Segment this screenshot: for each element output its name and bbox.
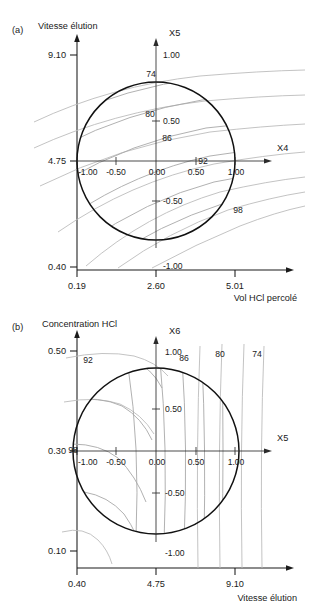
- panel-a-coded-x-label-000: 0.00: [149, 167, 166, 177]
- panel-a-coded-y-label-100: 1.00: [163, 50, 180, 60]
- panel-a-coded-y-label-050: 0.50: [163, 116, 180, 126]
- panel-a-coded-x-label-050: 0.50: [188, 167, 205, 177]
- panel-a-coded-y-axis-arrow: [153, 38, 158, 46]
- panel-b-svg: 0.50 0.30 0.10 0.40 4.75 9.10 -: [0, 306, 309, 611]
- panel-a-svg: 9.10 4.75 0.40 0.19 2.60 5.01 -1.00 -0.: [0, 0, 309, 305]
- panel-a-contour-label-74: 74: [146, 69, 156, 79]
- panel-b-coded-x-label-n100: -1.00: [78, 457, 98, 467]
- panel-a-y-axis-name: Vitesse élution: [38, 21, 98, 31]
- panel-a-tag: (a): [12, 25, 23, 35]
- panel-a-coded-y-label-n050: -0.50: [163, 196, 183, 206]
- panel-a-contour-plot: 9.10 4.75 0.40 0.19 2.60 5.01 -1.00 -0.: [0, 0, 309, 305]
- panel-b-coded-x-axis-arrow: [264, 448, 272, 453]
- panel-a-y-tick-label-2: 0.40: [48, 262, 66, 272]
- panel-a-coded-y-axis-name: X5: [169, 28, 180, 38]
- panel-a-contour-label-86: 86: [162, 133, 172, 143]
- panel-b-contour-label-80: 80: [215, 349, 225, 359]
- panel-b-x-axis-name: Vitesse élution: [237, 593, 297, 603]
- panel-a-coded-x-label-n100: -1.00: [78, 167, 98, 177]
- panel-b-coded-x-label-050: 0.50: [188, 457, 205, 467]
- panel-a-coded-x-axis-name: X4: [277, 143, 288, 153]
- panel-b-coded-y-axis-name: X6: [169, 326, 180, 336]
- panel-b-coded-y-axis-arrow: [153, 336, 158, 344]
- panel-a-contour-label-98: 98: [233, 205, 243, 215]
- panel-a-x-axis-arrow: [286, 267, 294, 273]
- panel-b-coded-x-axis-name: X5: [277, 433, 288, 443]
- panel-a-coded-x-label-n050: -0.50: [106, 167, 126, 177]
- panel-b-tag: (b): [12, 322, 23, 332]
- panel-a-contour-label-80: 80: [145, 109, 155, 119]
- panel-b-contour-label-86: 86: [179, 353, 189, 363]
- panel-b-contour-plot: 0.50 0.30 0.10 0.40 4.75 9.10 -: [0, 306, 309, 611]
- panel-b-y-tick-label-1: 0.30: [48, 446, 66, 456]
- panel-b-y-axis-arrow: [74, 330, 80, 338]
- panel-b-contour-label-92: 92: [83, 355, 93, 365]
- panel-b-y-axis-name: Concentration HCl: [42, 319, 117, 329]
- panel-b-x-axis-arrow: [286, 565, 294, 571]
- panel-b-coded-x-label-000: 0.00: [149, 457, 166, 467]
- panel-b-coded-x-label-100: 1.00: [228, 457, 245, 467]
- panel-b-contour-label-98: 98: [68, 445, 78, 455]
- panel-b-y-tick-label-0: 0.50: [48, 346, 66, 356]
- panel-b-contour-label-74: 74: [252, 349, 262, 359]
- panel-a-y-axis-arrow: [74, 34, 80, 42]
- panel-b-x-tick-label-1: 4.75: [147, 579, 165, 589]
- panel-a-x-tick-label-1: 2.60: [147, 281, 165, 291]
- panel-b-coded-y-label-n050: -0.50: [165, 488, 185, 498]
- panel-b-x-tick-label-2: 9.10: [226, 579, 244, 589]
- panel-b-y-tick-label-2: 0.10: [48, 546, 66, 556]
- panel-b-coded-x-label-n050: -0.50: [106, 457, 126, 467]
- panel-a-coded-x-axis-arrow: [264, 158, 272, 163]
- panel-a-coded-y-label-n100: -1.00: [163, 261, 183, 271]
- panel-b-coded-y-label-050: 0.50: [165, 404, 182, 414]
- panel-a-x-axis-name: Vol HCl percolé: [234, 293, 297, 303]
- panel-b-coded-y-label-n100: -1.00: [165, 548, 185, 558]
- panel-a-y-tick-label-0: 9.10: [48, 50, 66, 60]
- panel-a-contour-label-92: 92: [198, 156, 208, 166]
- panel-a-x-tick-label-2: 5.01: [226, 281, 244, 291]
- panel-a-coded-x-label-100: 1.00: [228, 167, 245, 177]
- panel-a-y-tick-label-1: 4.75: [48, 156, 66, 166]
- panel-b-x-tick-label-0: 0.40: [68, 579, 86, 589]
- panel-a-x-tick-label-0: 0.19: [68, 281, 86, 291]
